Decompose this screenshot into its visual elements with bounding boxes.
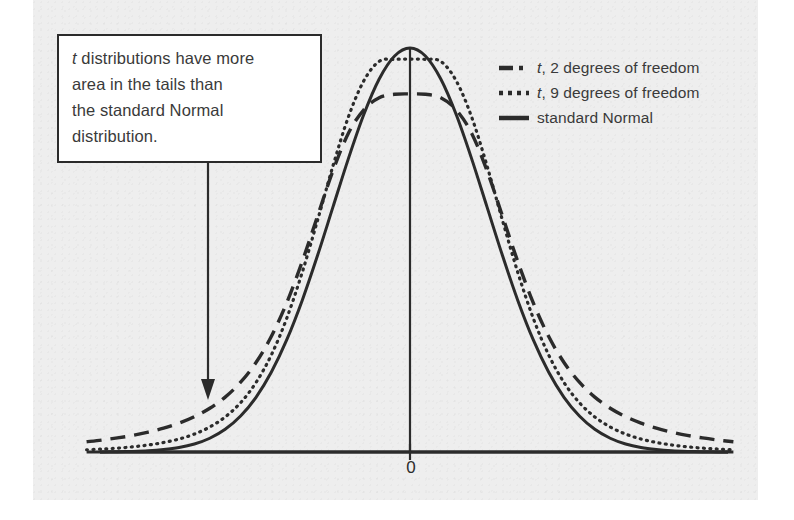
- legend-key-dashed-icon: [497, 61, 537, 75]
- legend-label-t9-rest: , 9 degrees of freedom: [541, 84, 699, 101]
- legend-item-t9: t, 9 degrees of freedom: [497, 80, 757, 105]
- annotation-callout: t distributions have more area in the ta…: [57, 34, 322, 163]
- chart-legend: t, 2 degrees of freedom t, 9 degrees of …: [497, 55, 757, 130]
- callout-line-3: the standard Normal: [72, 97, 308, 123]
- callout-line-1-rest: distributions have more: [77, 49, 255, 67]
- callout-line-1: t distributions have more: [72, 45, 308, 71]
- x-axis-zero-label: 0: [400, 458, 422, 478]
- figure-root: t distributions have more area in the ta…: [0, 0, 794, 520]
- legend-key-solid-icon: [497, 111, 537, 125]
- legend-key-dotted-icon: [497, 86, 537, 100]
- legend-label-t9: t, 9 degrees of freedom: [537, 84, 700, 102]
- callout-line-4: distribution.: [72, 123, 308, 149]
- legend-item-normal: standard Normal: [497, 105, 757, 130]
- legend-label-normal: standard Normal: [537, 109, 653, 127]
- callout-line-2: area in the tails than: [72, 71, 308, 97]
- legend-label-t2-rest: , 2 degrees of freedom: [541, 59, 699, 76]
- legend-label-t2: t, 2 degrees of freedom: [537, 59, 700, 77]
- annotation-arrow: [201, 163, 215, 400]
- legend-item-t2: t, 2 degrees of freedom: [497, 55, 757, 80]
